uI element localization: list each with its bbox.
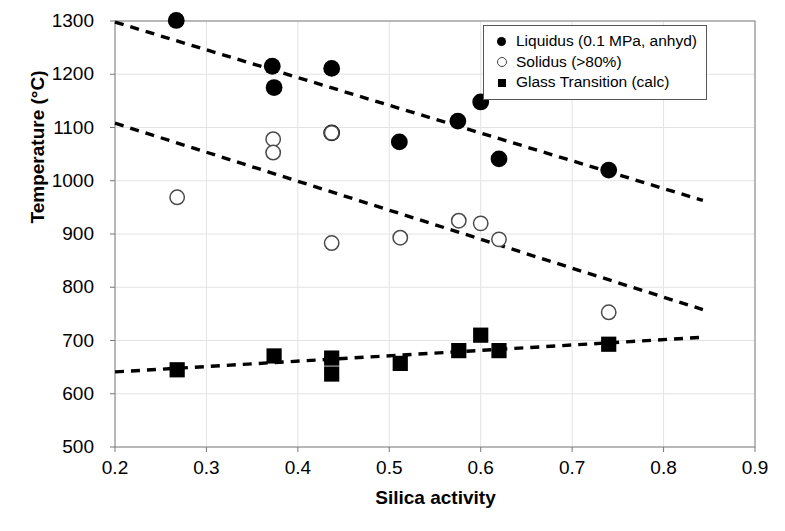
filled-square-glyph [498, 79, 506, 87]
data-point-liquidus [323, 60, 340, 77]
open-circle-glyph [497, 57, 507, 67]
legend-item-label: Solidus (>80%) [511, 52, 622, 73]
open-circle-icon [492, 52, 511, 73]
data-point-solidus [474, 216, 488, 230]
filled-circle-icon [492, 31, 511, 52]
x-tick-label: 0.4 [268, 458, 328, 477]
x-tick-label: 0.5 [359, 458, 419, 477]
data-point-glass-transition [266, 348, 281, 363]
data-point-liquidus [264, 58, 281, 75]
legend-item: Solidus (>80%) [492, 52, 697, 73]
data-point-solidus [393, 231, 407, 245]
filled-circle-glyph [497, 37, 506, 46]
data-point-solidus [170, 190, 184, 204]
x-tick-label: 0.6 [451, 458, 511, 477]
data-point-solidus [324, 236, 338, 250]
data-point-solidus [266, 145, 280, 159]
data-point-liquidus [600, 162, 617, 179]
data-point-glass-transition [473, 328, 488, 343]
legend-item-label: Glass Transition (calc) [511, 72, 669, 93]
legend-item: Liquidus (0.1 MPa, anhyd) [492, 31, 697, 52]
data-point-solidus [324, 126, 338, 140]
data-point-liquidus [449, 113, 466, 130]
data-point-liquidus [391, 133, 408, 150]
data-point-glass-transition [451, 343, 466, 358]
x-tick-label: 0.7 [542, 458, 602, 477]
filled-square-icon [492, 72, 511, 93]
y-tick-label: 1300 [18, 11, 94, 30]
chart-figure: 5006007008009001000110012001300 0.20.30.… [0, 0, 785, 531]
data-point-glass-transition [393, 356, 408, 371]
y-tick-label: 800 [18, 277, 94, 296]
data-point-solidus [602, 305, 616, 319]
data-point-glass-transition [324, 350, 339, 365]
data-point-solidus [266, 132, 280, 146]
y-axis-title: Temperature (°C) [27, 37, 49, 257]
y-tick-label: 500 [18, 437, 94, 456]
data-point-liquidus [491, 151, 508, 168]
x-tick-label: 0.2 [85, 458, 145, 477]
data-point-solidus [452, 213, 466, 227]
chart-legend: Liquidus (0.1 MPa, anhyd)Solidus (>80%)G… [483, 25, 707, 100]
x-tick-label: 0.8 [634, 458, 694, 477]
data-point-liquidus [168, 12, 185, 29]
legend-item-label: Liquidus (0.1 MPa, anhyd) [511, 31, 697, 52]
data-point-glass-transition [324, 366, 339, 381]
data-point-glass-transition [491, 343, 506, 358]
y-tick-label: 600 [18, 384, 94, 403]
data-point-glass-transition [170, 362, 185, 377]
data-point-glass-transition [601, 337, 616, 352]
plot-area-wrapper: 5006007008009001000110012001300 0.20.30.… [0, 0, 785, 531]
y-tick-label: 700 [18, 331, 94, 350]
data-point-liquidus [266, 79, 283, 96]
x-tick-label: 0.9 [725, 458, 785, 477]
data-point-solidus [492, 232, 506, 246]
x-axis-title: Silica activity [115, 487, 756, 509]
x-tick-label: 0.3 [176, 458, 236, 477]
solidus-trend [115, 123, 703, 309]
legend-item: Glass Transition (calc) [492, 72, 697, 93]
